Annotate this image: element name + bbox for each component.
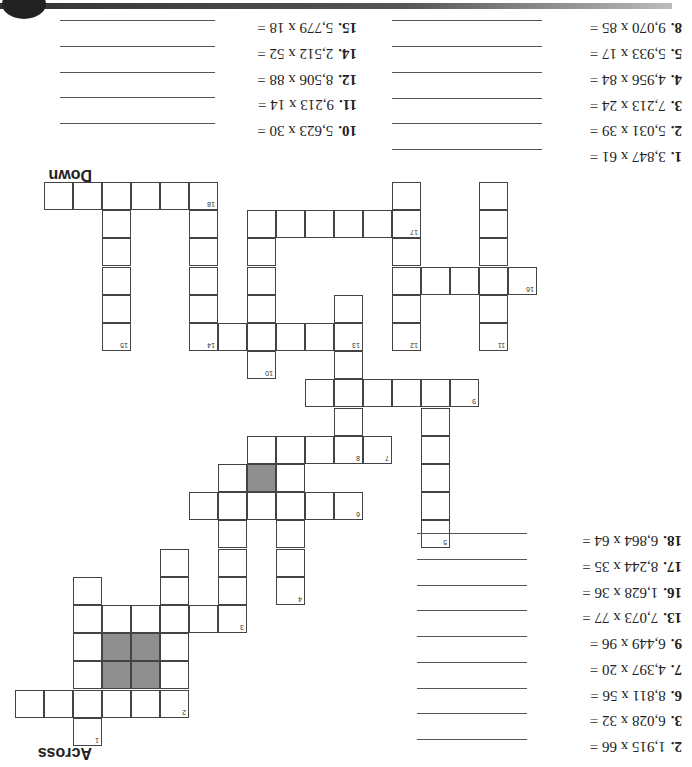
grid-cell[interactable] — [102, 267, 131, 295]
grid-cell[interactable] — [247, 436, 276, 464]
grid-cell[interactable] — [218, 464, 247, 492]
grid-cell[interactable]: 13 — [334, 323, 363, 351]
answer-line[interactable] — [417, 688, 527, 689]
grid-cell[interactable] — [450, 267, 479, 295]
grid-cell[interactable] — [44, 182, 73, 210]
grid-cell[interactable] — [73, 577, 102, 605]
grid-cell[interactable]: 10 — [247, 351, 276, 379]
grid-cell[interactable] — [189, 605, 218, 633]
grid-cell[interactable] — [305, 436, 334, 464]
grid-cell[interactable] — [334, 295, 363, 323]
grid-cell[interactable]: 15 — [102, 323, 131, 351]
grid-cell[interactable] — [392, 238, 421, 266]
grid-cell[interactable] — [334, 210, 363, 238]
grid-cell[interactable]: 1 — [73, 718, 102, 746]
grid-cell[interactable]: 4 — [276, 577, 305, 605]
answer-line[interactable] — [392, 21, 542, 22]
grid-cell[interactable]: 6 — [334, 492, 363, 520]
grid-cell[interactable] — [102, 210, 131, 238]
answer-line[interactable] — [392, 72, 542, 73]
grid-cell[interactable] — [421, 379, 450, 407]
answer-line[interactable] — [60, 97, 215, 98]
grid-cell[interactable] — [334, 379, 363, 407]
grid-cell[interactable] — [479, 238, 508, 266]
grid-cell[interactable] — [276, 520, 305, 548]
grid-cell[interactable] — [276, 210, 305, 238]
answer-line[interactable] — [60, 20, 215, 21]
grid-cell[interactable] — [421, 436, 450, 464]
grid-cell[interactable] — [479, 210, 508, 238]
grid-cell[interactable] — [218, 577, 247, 605]
grid-cell[interactable] — [392, 295, 421, 323]
grid-cell[interactable]: 11 — [479, 323, 508, 351]
grid-cell[interactable]: 8 — [334, 436, 363, 464]
grid-cell[interactable] — [305, 379, 334, 407]
grid-cell[interactable]: 17 — [392, 210, 421, 238]
grid-cell[interactable] — [392, 379, 421, 407]
grid-cell[interactable] — [334, 351, 363, 379]
grid-cell[interactable] — [392, 182, 421, 210]
grid-cell[interactable]: 18 — [189, 182, 218, 210]
grid-cell[interactable] — [160, 633, 189, 661]
grid-cell[interactable] — [479, 295, 508, 323]
grid-cell[interactable] — [247, 238, 276, 266]
grid-cell[interactable] — [131, 605, 160, 633]
grid-cell[interactable] — [160, 577, 189, 605]
answer-line[interactable] — [60, 46, 215, 47]
grid-cell[interactable] — [160, 182, 189, 210]
grid-cell[interactable] — [73, 690, 102, 718]
grid-cell[interactable] — [247, 295, 276, 323]
grid-cell[interactable] — [131, 182, 160, 210]
grid-cell[interactable]: 12 — [392, 323, 421, 351]
answer-line[interactable] — [417, 713, 527, 714]
answer-line[interactable] — [417, 533, 527, 534]
grid-cell[interactable] — [247, 210, 276, 238]
grid-cell[interactable] — [189, 210, 218, 238]
grid-cell[interactable] — [218, 492, 247, 520]
grid-cell[interactable] — [189, 267, 218, 295]
grid-cell[interactable] — [247, 323, 276, 351]
grid-cell[interactable] — [44, 690, 73, 718]
grid-cell[interactable]: 7 — [363, 436, 392, 464]
grid-cell[interactable] — [73, 661, 102, 689]
answer-line[interactable] — [417, 559, 527, 560]
grid-cell[interactable] — [276, 323, 305, 351]
grid-cell[interactable] — [15, 690, 44, 718]
grid-cell[interactable]: 9 — [450, 379, 479, 407]
grid-cell[interactable] — [421, 408, 450, 436]
grid-cell[interactable] — [189, 238, 218, 266]
answer-line[interactable] — [417, 739, 527, 740]
grid-cell[interactable] — [421, 492, 450, 520]
grid-cell[interactable]: 2 — [160, 690, 189, 718]
grid-cell[interactable] — [160, 549, 189, 577]
answer-line[interactable] — [392, 46, 542, 47]
answer-line[interactable] — [417, 611, 527, 612]
grid-cell[interactable] — [334, 408, 363, 436]
grid-cell[interactable] — [305, 210, 334, 238]
grid-cell[interactable] — [276, 464, 305, 492]
grid-cell[interactable] — [218, 323, 247, 351]
grid-cell[interactable] — [247, 492, 276, 520]
grid-cell[interactable] — [276, 492, 305, 520]
answer-line[interactable] — [392, 123, 542, 124]
grid-cell[interactable] — [102, 238, 131, 266]
grid-cell[interactable] — [73, 633, 102, 661]
grid-cell[interactable]: 14 — [189, 323, 218, 351]
grid-cell[interactable]: 3 — [218, 605, 247, 633]
answer-line[interactable] — [417, 585, 527, 586]
grid-cell[interactable] — [160, 661, 189, 689]
grid-cell[interactable] — [131, 690, 160, 718]
grid-cell[interactable] — [73, 605, 102, 633]
grid-cell[interactable] — [160, 605, 189, 633]
answer-line[interactable] — [60, 72, 215, 73]
grid-cell[interactable] — [421, 267, 450, 295]
grid-cell[interactable] — [305, 323, 334, 351]
grid-cell[interactable] — [102, 605, 131, 633]
answer-line[interactable] — [392, 98, 542, 99]
grid-cell[interactable]: 5 — [421, 520, 450, 548]
grid-cell[interactable] — [421, 464, 450, 492]
answer-line[interactable] — [417, 636, 527, 637]
grid-cell[interactable] — [102, 295, 131, 323]
grid-cell[interactable] — [305, 492, 334, 520]
grid-cell[interactable] — [247, 267, 276, 295]
